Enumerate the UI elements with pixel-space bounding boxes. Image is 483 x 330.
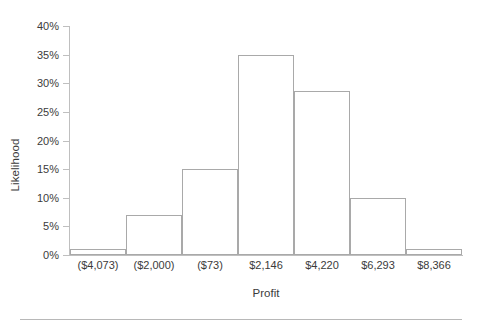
- x-axis-title: Profit: [70, 287, 462, 299]
- y-axis-tick-label: 5%: [3, 220, 59, 232]
- y-axis-tick-label-wrap: 25%: [0, 112, 59, 113]
- y-axis-tick-label-wrap: 15%: [0, 169, 59, 170]
- y-axis-tick: [63, 226, 70, 227]
- y-axis-tick: [63, 255, 70, 256]
- y-axis-tick-label: 20%: [3, 135, 59, 147]
- y-axis-tick: [63, 112, 70, 113]
- bar: [70, 249, 126, 255]
- x-axis-tick-label: $6,293: [350, 259, 406, 271]
- y-axis-tick-label: 25%: [3, 106, 59, 118]
- bar: [406, 249, 462, 255]
- y-axis-tick: [63, 198, 70, 199]
- x-axis-title-text: Profit: [253, 287, 280, 299]
- y-axis-tick-label-wrap: 40%: [0, 26, 59, 27]
- y-axis-tick-label: 0%: [3, 249, 59, 261]
- y-axis-tick-label: 35%: [3, 49, 59, 61]
- x-axis-tick-label: $2,146: [238, 259, 294, 271]
- x-axis-tick-label: ($73): [182, 259, 238, 271]
- bottom-divider: [20, 319, 462, 320]
- y-axis-tick-label-wrap: 20%: [0, 141, 59, 142]
- histogram-chart: Likelihood 0%5%10%15%20%25%30%35%40% ($4…: [0, 0, 483, 330]
- y-axis-tick-label-wrap: 30%: [0, 83, 59, 84]
- y-axis-tick: [63, 169, 70, 170]
- bar: [126, 215, 182, 255]
- bar-series: [70, 26, 462, 255]
- y-axis-tick-label: 40%: [3, 20, 59, 32]
- bar: [182, 169, 238, 255]
- bar: [238, 55, 294, 255]
- bar: [350, 198, 406, 255]
- y-axis-tick: [63, 26, 70, 27]
- x-axis-tick-label: ($2,000): [126, 259, 182, 271]
- y-axis-tick-label-wrap: 5%: [0, 226, 59, 227]
- y-axis-tick-label-wrap: 35%: [0, 55, 59, 56]
- y-axis-tick-label-wrap: 10%: [0, 198, 59, 199]
- y-axis-tick: [63, 141, 70, 142]
- x-axis-tick-label: $8,366: [406, 259, 462, 271]
- y-axis-tick-label: 15%: [3, 163, 59, 175]
- y-axis-tick: [63, 83, 70, 84]
- y-axis-tick-label: 30%: [3, 77, 59, 89]
- x-axis-tick-label: $4,220: [294, 259, 350, 271]
- x-axis-line: [69, 255, 463, 256]
- x-axis-tick-label: ($4,073): [70, 259, 126, 271]
- y-axis-tick-label: 10%: [3, 192, 59, 204]
- y-axis-tick: [63, 55, 70, 56]
- y-axis-tick-label-wrap: 0%: [0, 255, 59, 256]
- bar: [294, 91, 350, 255]
- x-axis-labels: ($4,073)($2,000)($73)$2,146$4,220$6,293$…: [70, 259, 462, 277]
